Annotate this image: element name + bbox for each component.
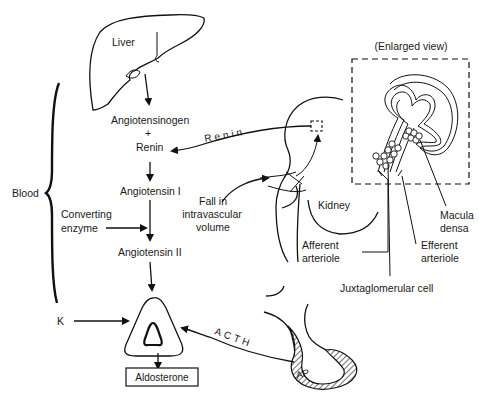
adrenal-gland [125,297,183,356]
renin-substrate-label: Renin [136,141,164,153]
efferent-arteriole-label-2: arteriole [421,252,459,264]
converting-enzyme-label-2: enzyme [61,222,98,234]
afferent-arteriole-pointer [362,170,388,252]
blood-label: Blood [12,187,39,199]
k-label: K [57,315,64,327]
fall-in-volume-arrow [222,178,268,202]
renin-arrow-label: Renin [203,126,245,144]
pituitary-organ: AP [264,286,357,389]
liver-organ: Liver [90,15,204,110]
liver-label: Liver [112,36,135,48]
efferent-arteriole-label-1: Efferent [421,239,458,251]
renin-angiotensin-diagram: Liver Angiotensinogen + Renin Angiotensi… [0,0,479,403]
to-adrenal-arrow [150,262,152,290]
ap-label: AP [295,367,311,381]
afferent-arteriole-label-2: arteriole [302,252,340,264]
aldosterone-label: Aldosterone [135,372,189,383]
fall-in-volume-label-2: intravascular [182,208,242,220]
macula-densa-label-2: densa [440,222,469,234]
acth-arrow-label: ACTH [213,326,254,350]
enlarged-view-box [352,59,469,184]
liver-to-angiotensinogen-arrow [145,74,149,104]
kidney-label: Kidney [318,199,351,211]
afferent-arteriole-label-1: Afferent [302,239,339,251]
enlarged-view-label: (Enlarged view) [375,40,448,52]
juxtaglomerular-label: Juxtaglomerular cell [340,282,433,294]
glomerulus-detail [373,75,458,176]
kidney-organ [260,97,378,262]
fall-in-volume-label-3: volume [196,221,230,233]
angiotensin-1-label: Angiotensin I [120,185,181,197]
angiotensinogen-label: Angiotensinogen [111,114,189,126]
converting-enzyme-label-1: Converting [61,208,112,220]
plus-sign: + [145,127,151,139]
macula-densa-label-1: Macula [440,209,474,221]
angiotensin-2-label: Angiotensin II [118,246,182,258]
fall-in-volume-label-1: Fall in [199,195,227,207]
aldosterone-box: Aldosterone [126,368,198,386]
macula-densa-pointer [420,140,446,206]
efferent-arteriole-pointer [402,176,416,244]
blood-brace [46,83,59,303]
